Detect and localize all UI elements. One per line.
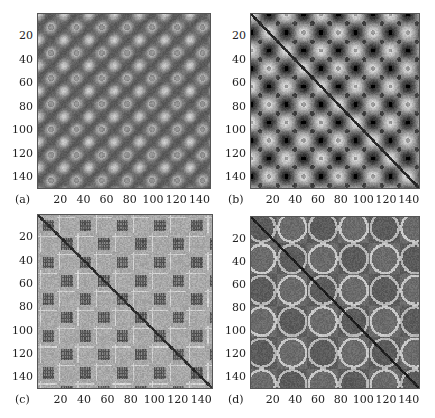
x-tick-label: 140 [187, 194, 211, 206]
x-tick-label: 120 [374, 194, 398, 206]
x-tick-label: 80 [119, 394, 143, 406]
panel-label: (c) [15, 394, 30, 406]
y-tick-label: 80 [220, 302, 246, 314]
y-tick-label: 140 [220, 371, 246, 383]
x-tick-label: 20 [48, 194, 72, 206]
y-tick-label: 100 [7, 325, 33, 337]
y-tick-label: 40 [7, 255, 33, 267]
x-tick-label: 20 [48, 394, 72, 406]
y-tick-label: 80 [7, 101, 33, 113]
x-tick-label: 80 [329, 194, 353, 206]
x-tick-label: 80 [118, 194, 142, 206]
x-tick-label: 40 [71, 194, 95, 206]
y-tick-label: 80 [220, 101, 246, 113]
x-tick-label: 120 [166, 394, 190, 406]
y-tick-label: 100 [220, 325, 246, 337]
y-tick-label: 20 [220, 30, 246, 42]
y-tick-label: 80 [7, 301, 33, 313]
panel-label: (d) [228, 394, 244, 406]
x-tick-label: 60 [95, 394, 119, 406]
y-tick-label: 120 [220, 148, 246, 160]
heatmap-plot-area [37, 13, 211, 189]
y-tick-label: 60 [7, 278, 33, 290]
y-tick-label: 120 [7, 148, 33, 160]
y-tick-label: 140 [7, 371, 33, 383]
y-tick-label: 60 [7, 77, 33, 89]
y-tick-label: 20 [7, 30, 33, 42]
x-tick-label: 60 [95, 194, 119, 206]
panel-label: (a) [15, 194, 30, 206]
y-tick-label: 120 [7, 348, 33, 360]
y-tick-label: 120 [220, 348, 246, 360]
x-tick-label: 60 [306, 394, 330, 406]
heatmap-plot-area [250, 216, 420, 389]
heatmap-image [251, 217, 419, 388]
x-tick-label: 120 [164, 194, 188, 206]
x-tick-label: 140 [397, 194, 421, 206]
x-tick-label: 60 [306, 194, 330, 206]
heatmap-image [251, 14, 419, 188]
x-tick-label: 40 [283, 194, 307, 206]
y-tick-label: 20 [7, 231, 33, 243]
y-tick-label: 60 [220, 77, 246, 89]
heatmap-plot-area [37, 214, 213, 389]
x-tick-label: 100 [142, 394, 166, 406]
panel-label: (b) [228, 194, 244, 206]
x-tick-label: 40 [72, 394, 96, 406]
x-tick-label: 20 [261, 194, 285, 206]
x-tick-label: 100 [351, 194, 375, 206]
y-tick-label: 100 [7, 124, 33, 136]
heatmap-image [38, 14, 210, 188]
heatmap-plot-area [250, 13, 420, 189]
y-tick-label: 60 [220, 279, 246, 291]
x-tick-label: 20 [261, 394, 285, 406]
x-tick-label: 100 [351, 394, 375, 406]
y-tick-label: 140 [7, 171, 33, 183]
x-tick-label: 140 [189, 394, 213, 406]
x-tick-label: 40 [283, 394, 307, 406]
y-tick-label: 100 [220, 124, 246, 136]
x-tick-label: 140 [397, 394, 421, 406]
y-tick-label: 40 [220, 54, 246, 66]
y-tick-label: 20 [220, 233, 246, 245]
y-tick-label: 40 [220, 256, 246, 268]
x-tick-label: 100 [141, 194, 165, 206]
y-tick-label: 140 [220, 171, 246, 183]
x-tick-label: 120 [374, 394, 398, 406]
heatmap-image [38, 215, 212, 388]
y-tick-label: 40 [7, 54, 33, 66]
x-tick-label: 80 [329, 394, 353, 406]
